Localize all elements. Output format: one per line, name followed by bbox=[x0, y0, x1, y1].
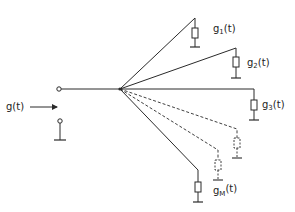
resistor-icon bbox=[251, 100, 257, 110]
branch-2: g2(t) bbox=[120, 48, 270, 89]
branch-2-label: g2(t) bbox=[247, 57, 270, 70]
input-section: g(t) bbox=[6, 87, 120, 140]
resistor-icon bbox=[195, 182, 201, 192]
switch-terminal-upper bbox=[57, 87, 61, 91]
signal-distribution-diagram: g(t) g1(t) g2(t) bbox=[0, 0, 295, 212]
resistor-icon bbox=[192, 28, 198, 38]
switch-terminal-lower bbox=[58, 119, 62, 123]
resistor-icon bbox=[215, 160, 221, 170]
branch-dashed-a bbox=[120, 89, 242, 158]
branch-m: gM(t) bbox=[120, 89, 237, 202]
branch-1: g1(t) bbox=[120, 18, 236, 89]
branch-3-label: g3(t) bbox=[262, 99, 285, 112]
branch-1-label: g1(t) bbox=[213, 23, 236, 36]
branch-dashed-b bbox=[120, 89, 223, 180]
input-label: g(t) bbox=[6, 101, 24, 112]
resistor-icon bbox=[234, 138, 240, 148]
resistor-icon bbox=[233, 57, 239, 67]
branch-m-label: gM(t) bbox=[213, 183, 237, 198]
